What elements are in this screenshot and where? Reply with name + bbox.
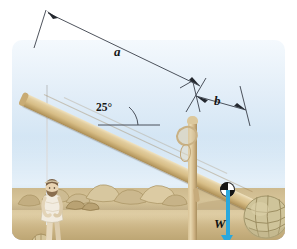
dimension-b-label: b [214,93,221,109]
wooden-lever-beam [19,93,271,220]
weight-force-arrow-shaft [226,190,230,238]
beam-grain-line [44,94,253,192]
figure-container: W [0,0,297,249]
post-top-cap [187,116,198,124]
angle-label: 25° [96,101,112,113]
weight-force-arrow-head [221,235,233,240]
illustration-panel: W [12,40,285,240]
dimension-a-label: a [114,44,121,60]
netted-stone-load [241,190,285,240]
weight-label: W [214,216,226,232]
